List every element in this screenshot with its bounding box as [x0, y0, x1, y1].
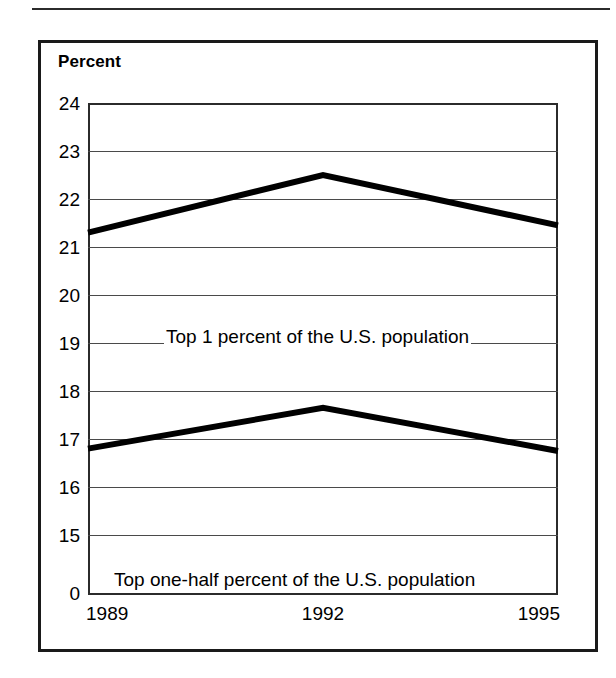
plot-area: Top 1 percent of the U.S. population Top…: [88, 103, 558, 595]
series-line: [88, 175, 558, 233]
y-tick-label: 23: [34, 142, 80, 161]
y-tick-label: 18: [34, 382, 80, 401]
x-axis-tick-labels: 198919921995: [88, 603, 558, 633]
y-tick-label: 20: [34, 286, 80, 305]
y-tick-label: 0: [34, 584, 80, 603]
top-horizontal-rule: [32, 8, 610, 10]
y-tick-label: 17: [34, 430, 80, 449]
series-lines: [88, 103, 558, 595]
series-annotation-top-1-percent: Top 1 percent of the U.S. population: [164, 327, 471, 347]
series-line: [88, 408, 558, 451]
x-tick-label: 1995: [518, 603, 560, 625]
x-tick-label: 1989: [86, 603, 128, 625]
y-tick-label: 15: [34, 526, 80, 545]
y-tick-label: 16: [34, 478, 80, 497]
y-tick-label: 21: [34, 238, 80, 257]
y-tick-label: 22: [34, 190, 80, 209]
y-tick-label: 24: [34, 94, 80, 113]
x-tick-label: 1992: [302, 603, 344, 625]
y-axis-tick-labels: 242322212019181716150: [30, 103, 80, 595]
y-tick-label: 19: [34, 334, 80, 353]
series-annotation-top-one-half-percent: Top one-half percent of the U.S. populat…: [112, 570, 477, 590]
y-axis-title: Percent: [58, 52, 121, 72]
